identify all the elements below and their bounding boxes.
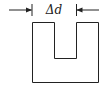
u-shaped-block (33, 23, 99, 83)
delta-d-label: Δd (45, 3, 63, 17)
diagram-canvas: Δd (0, 0, 109, 86)
